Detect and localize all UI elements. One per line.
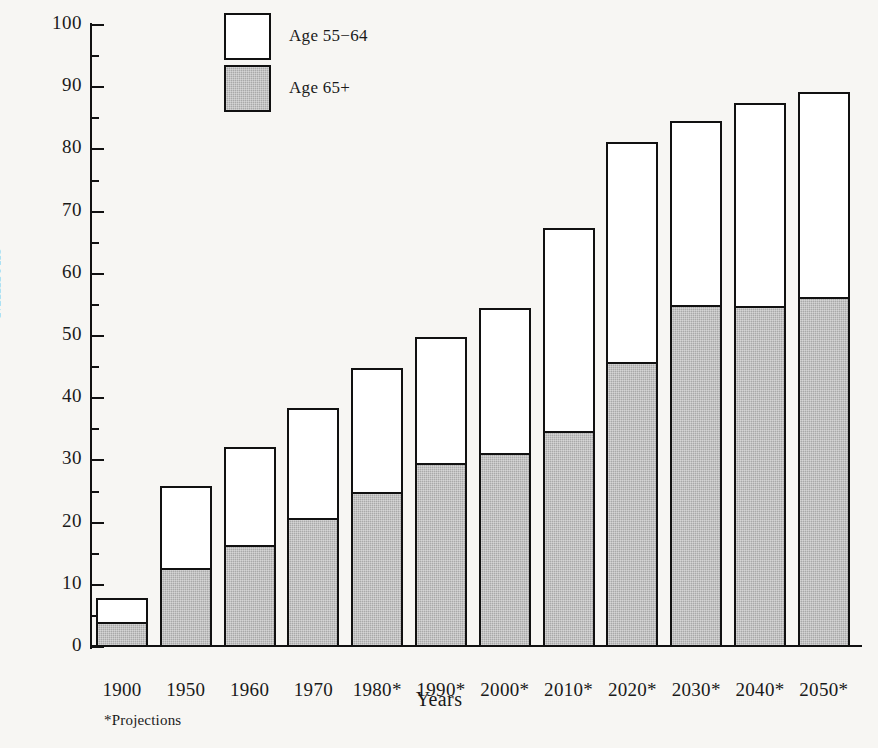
y-tick-label: 70: [62, 200, 82, 220]
y-tick-label: 50: [62, 324, 82, 344]
bar-1950: [160, 486, 212, 647]
bar-1960: [224, 447, 276, 647]
bar-segment-age-65-plus: [417, 463, 465, 645]
bar-1990-projected: [415, 337, 467, 647]
bar-2000-projected: [479, 308, 531, 647]
bar-segment-age-65-plus: [353, 492, 401, 645]
y-tick-label: 20: [62, 511, 82, 531]
bar-segment-age-65-plus: [481, 453, 529, 645]
bar-2020-projected: [606, 142, 658, 647]
bar-segment-age-65-plus: [608, 362, 656, 645]
bar-2040-projected: [734, 103, 786, 647]
bar-segment-age-65-plus: [736, 306, 784, 645]
y-axis-ticks: 0102030405060708090100: [90, 0, 91, 748]
bar-segment-age-65-plus: [672, 305, 720, 645]
bar-2050-projected: [798, 92, 850, 647]
bar-2030-projected: [670, 121, 722, 647]
bar-segment-age-65-plus: [800, 297, 848, 645]
bar-segment-age-65-plus: [289, 518, 337, 645]
bar-segment-age-65-plus: [545, 431, 593, 645]
y-axis-title: Millions: [0, 247, 5, 318]
y-tick-label: 10: [62, 573, 82, 593]
stacked-bar-chart: Age 55−64 Age 65+ 0102030405060708090100…: [0, 0, 878, 748]
bar-segment-age-65-plus: [162, 568, 210, 645]
plot-area: 19001950196019701980*1990*2000*2010*2020…: [96, 25, 860, 647]
bar-1980-projected: [351, 368, 403, 647]
y-tick-label: 40: [62, 386, 82, 406]
bar-segment-age-65-plus: [98, 622, 146, 645]
bar-2010-projected: [543, 228, 595, 647]
bar-1900: [96, 598, 148, 647]
chart-footnote: *Projections: [104, 712, 181, 729]
x-axis-title: Years: [0, 688, 878, 711]
y-tick-label: 0: [72, 635, 82, 655]
bar-1970: [287, 408, 339, 647]
y-tick-label: 100: [52, 13, 82, 33]
bar-segment-age-65-plus: [226, 545, 274, 645]
y-tick-label: 80: [62, 137, 82, 157]
y-tick-label: 30: [62, 448, 82, 468]
y-tick-label: 90: [62, 75, 82, 95]
y-tick-label: 60: [62, 262, 82, 282]
